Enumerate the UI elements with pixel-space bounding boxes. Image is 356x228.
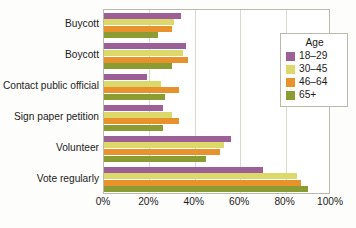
category-label: Boycott xyxy=(0,50,99,60)
bar xyxy=(104,125,163,131)
bar xyxy=(104,50,183,56)
chart-legend: Age 18–2930–4546–6465+ xyxy=(280,33,348,107)
bar xyxy=(104,81,161,87)
value-tick-label: 80% xyxy=(274,197,294,207)
bar xyxy=(104,156,206,162)
category-label: Buycott xyxy=(0,19,99,29)
bar xyxy=(104,105,163,111)
bar xyxy=(104,173,297,179)
category-label: Vote regularly xyxy=(0,174,99,184)
category-label: Contact public official xyxy=(0,81,99,91)
legend-color-swatch xyxy=(286,52,295,61)
bar xyxy=(104,136,231,142)
bar xyxy=(104,112,172,118)
legend-title: Age xyxy=(286,37,343,48)
bar-group xyxy=(104,164,329,195)
category-axis-labels: BuycottBoycottContact public officialSig… xyxy=(0,9,99,194)
bar xyxy=(104,180,301,186)
bar-group xyxy=(104,133,329,164)
legend-entry: 46–64 xyxy=(286,76,343,88)
bar xyxy=(104,57,188,63)
bar xyxy=(104,63,172,69)
bar xyxy=(104,13,181,19)
legend-color-swatch xyxy=(286,65,295,74)
value-tick-label: 20% xyxy=(138,197,158,207)
category-label: Volunteer xyxy=(0,143,99,153)
bar xyxy=(104,74,147,80)
bar xyxy=(104,94,165,100)
bar xyxy=(104,26,172,32)
legend-entry: 18–29 xyxy=(286,50,343,62)
legend-entry: 30–45 xyxy=(286,63,343,75)
category-label: Sign paper petition xyxy=(0,112,99,122)
bar xyxy=(104,186,308,192)
bar xyxy=(104,32,158,38)
legend-entry-label: 46–64 xyxy=(299,77,327,87)
bar xyxy=(104,142,224,148)
legend-entry: 65+ xyxy=(286,89,343,101)
legend-entry-label: 65+ xyxy=(299,90,316,100)
legend-entry-list: 18–2930–4546–6465+ xyxy=(286,50,343,101)
bar xyxy=(104,43,186,49)
legend-color-swatch xyxy=(286,78,295,87)
bar xyxy=(104,87,179,93)
grouped-bar-chart: BuycottBoycottContact public officialSig… xyxy=(0,0,356,228)
bar xyxy=(104,118,179,124)
bar xyxy=(104,19,174,25)
legend-entry-label: 30–45 xyxy=(299,64,327,74)
legend-color-swatch xyxy=(286,91,295,100)
value-tick-label: 0% xyxy=(96,197,111,207)
bar xyxy=(104,167,263,173)
value-tick-label: 100% xyxy=(317,197,343,207)
legend-entry-label: 18–29 xyxy=(299,51,327,61)
value-axis-tick-labels: 0%20%40%60%80%100% xyxy=(103,197,330,211)
value-tick-label: 60% xyxy=(229,197,249,207)
bar xyxy=(104,149,220,155)
value-tick-label: 40% xyxy=(184,197,204,207)
